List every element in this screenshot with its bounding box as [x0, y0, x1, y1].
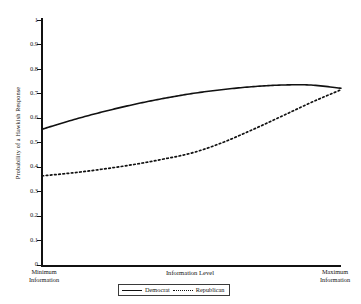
legend-label-democrat: Democrat: [145, 286, 170, 294]
series-line-republican: [42, 90, 341, 176]
chart-figure: Probability of a Hawkish Response 1 0.9 …: [0, 0, 361, 304]
legend-item-democrat: Democrat: [122, 286, 170, 294]
dashed-line-icon: [173, 290, 193, 291]
x-tick-label-maximum-line2: Information: [320, 276, 350, 283]
x-tick-label-minimum-line2: Information: [29, 276, 59, 283]
series-line-democrat: [42, 85, 341, 130]
solid-line-icon: [122, 290, 142, 291]
legend-label-republican: Republican: [196, 286, 225, 294]
x-tick-label-minimum: Minimum Information: [20, 268, 68, 284]
x-tick-label-maximum-line1: Maximum: [322, 268, 348, 275]
legend-item-republican: Republican: [173, 286, 225, 294]
chart-legend: Democrat Republican: [118, 284, 230, 296]
x-tick-label-maximum: Maximum Information: [311, 268, 359, 284]
plot-area: [0, 0, 361, 304]
x-axis-title: Information Level: [110, 268, 270, 277]
x-tick-label-minimum-line1: Minimum: [31, 268, 56, 275]
